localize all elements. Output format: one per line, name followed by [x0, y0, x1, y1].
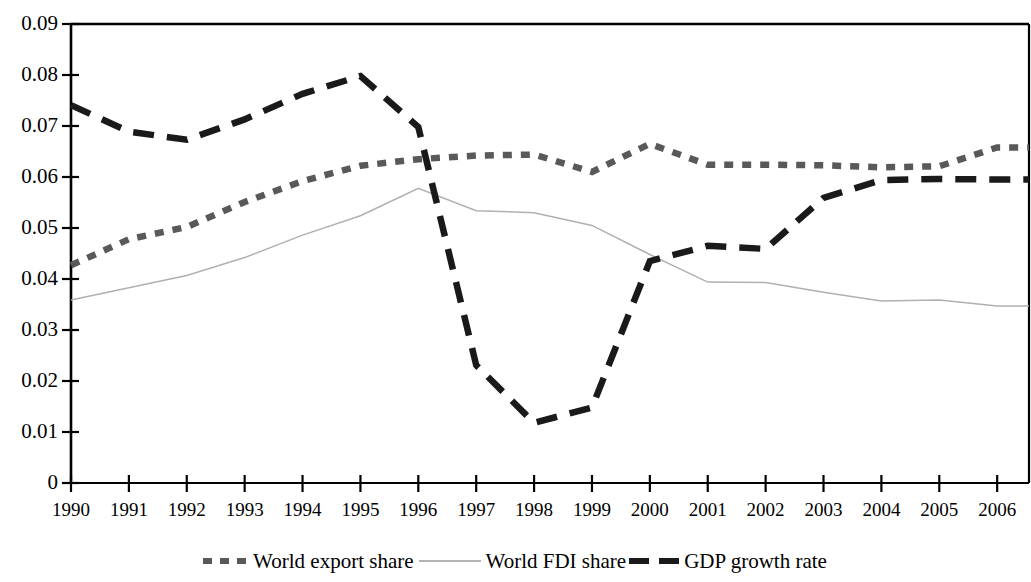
legend-label-0: World export share	[252, 551, 414, 572]
line-chart: 00.010.020.030.040.050.060.070.080.09 19…	[0, 0, 1031, 582]
y-tick-label-0: 0	[2, 472, 58, 493]
y-tick-label-1: 0.01	[2, 421, 58, 442]
y-tick-label-8: 0.08	[2, 64, 58, 85]
y-tick-label-7: 0.07	[2, 115, 58, 136]
legend-label-2: GDP growth rate	[683, 551, 828, 572]
series-line-1	[71, 188, 1029, 306]
y-tick-label-3: 0.03	[2, 319, 58, 340]
y-tick-label-6: 0.06	[2, 166, 58, 187]
legend-label-1: World FDI share	[485, 551, 628, 572]
legend-swatch-dashed-icon	[629, 558, 681, 564]
axis-lines	[71, 24, 1029, 483]
series-layer	[71, 76, 1029, 423]
legend-item-world-fdi-share: World FDI share	[415, 549, 628, 572]
legend-swatch-solid-icon	[419, 560, 481, 562]
y-tick-label-9: 0.09	[2, 13, 58, 34]
legend-swatch-dotted-icon	[203, 558, 249, 564]
chart-legend: World export share World FDI share GDP g…	[0, 548, 1031, 572]
legend-item-gdp-growth-rate: GDP growth rate	[627, 549, 828, 572]
legend-item-world-export-share: World export share	[203, 549, 414, 572]
y-tick-label-4: 0.04	[2, 268, 58, 289]
y-tick-label-5: 0.05	[2, 217, 58, 238]
series-line-2	[71, 76, 1029, 423]
series-line-0	[71, 144, 1029, 265]
plot-area	[0, 0, 1031, 582]
x-tick-label-16: 2006	[962, 500, 1031, 519]
y-tick-label-2: 0.02	[2, 370, 58, 391]
